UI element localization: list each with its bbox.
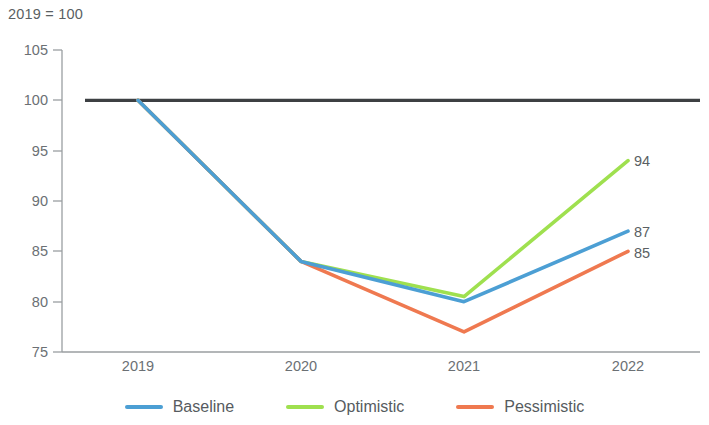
series-line-optimistic [138, 100, 628, 296]
legend-item-baseline[interactable]: Baseline [125, 398, 234, 416]
series-line-baseline [138, 100, 628, 301]
chart-axes [53, 50, 700, 352]
legend-item-pessimistic[interactable]: Pessimistic [456, 398, 584, 416]
legend-label-baseline: Baseline [173, 398, 234, 416]
legend-item-optimistic[interactable]: Optimistic [286, 398, 404, 416]
legend-swatch-pessimistic [456, 405, 494, 409]
y-axis-ticks [53, 50, 62, 352]
legend-swatch-optimistic [286, 405, 324, 409]
plot-area [0, 0, 709, 425]
legend-swatch-baseline [125, 405, 163, 409]
legend-label-optimistic: Optimistic [334, 398, 404, 416]
series-line-pessimistic [138, 100, 628, 332]
chart-legend: Baseline Optimistic Pessimistic [0, 398, 709, 416]
legend-label-pessimistic: Pessimistic [504, 398, 584, 416]
line-chart: 2019 = 100 105 100 95 90 85 80 75 2019 2… [0, 0, 709, 425]
